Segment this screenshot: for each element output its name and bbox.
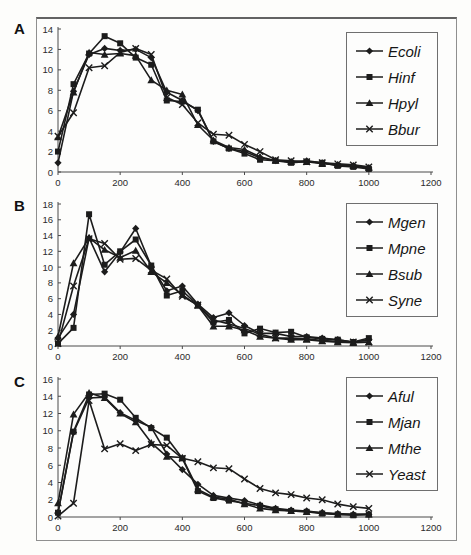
legend-entry-hpyl: Hpyl	[355, 90, 437, 116]
panel-c: 0246810121416020040060080010001200AfulMj…	[36, 369, 457, 541]
legend-label: Mpne	[388, 240, 426, 257]
triangle-marker-icon	[355, 268, 385, 280]
x-tick-label: 0	[55, 177, 60, 188]
triangle-marker	[147, 76, 155, 83]
legend-entry-mgen: Mgen	[355, 209, 437, 235]
y-tick-label: 10	[42, 262, 53, 273]
y-tick-label: 0	[48, 341, 53, 352]
square-marker	[257, 326, 263, 332]
x-tick-label: 1000	[358, 351, 379, 362]
figure-container: A B C 02468101214020040060080010001200Ec…	[0, 0, 471, 555]
x-tick-label: 200	[112, 177, 128, 188]
square-marker	[86, 211, 92, 217]
legend-entry-bbur: Bbur	[355, 116, 437, 142]
square-marker	[164, 435, 170, 441]
y-tick-label: 12	[42, 246, 53, 257]
legend-label: Mthe	[388, 440, 421, 457]
square-marker	[102, 33, 108, 39]
y-tick-label: 2	[48, 325, 53, 336]
legend-entry-mpne: Mpne	[355, 235, 437, 261]
y-tick-label: 8	[48, 443, 53, 454]
y-tick-label: 6	[48, 460, 53, 471]
y-tick-label: 14	[42, 24, 53, 35]
diamond-marker	[366, 47, 373, 54]
square-marker	[148, 62, 154, 68]
y-tick-label: 12	[42, 44, 53, 55]
y-tick-label: 4	[48, 126, 53, 137]
legend-entry-aful: Aful	[355, 383, 437, 409]
legend-entry-mthe: Mthe	[355, 435, 437, 461]
y-tick-label: 0	[48, 512, 53, 523]
series-bbur	[55, 45, 372, 170]
legend-label: Hinf	[388, 69, 415, 86]
series-hpyl	[54, 49, 373, 171]
panel-c-legend: AfulMjanMtheYeast	[346, 377, 438, 491]
square-marker-icon	[355, 71, 385, 83]
x-tick-label: 800	[299, 177, 315, 188]
y-tick-label: 16	[42, 214, 53, 225]
y-tick-label: 16	[42, 374, 53, 385]
square-marker	[367, 245, 373, 251]
series-yeast	[55, 397, 372, 519]
x-marker	[133, 447, 139, 453]
square-marker	[133, 237, 139, 243]
x-tick-label: 0	[55, 522, 60, 533]
y-tick-label: 12	[42, 408, 53, 419]
x-tick-label: 1000	[358, 177, 379, 188]
legend-label: Bsub	[388, 266, 422, 283]
x-marker-icon	[355, 123, 385, 135]
y-tick-label: 8	[48, 85, 53, 96]
legend-label: Mjan	[388, 414, 421, 431]
square-marker	[117, 248, 123, 254]
x-tick-label: 1200	[420, 351, 441, 362]
panel-a-label: A	[14, 20, 25, 37]
panel-b: 024681012141618020040060080010001200Mgen…	[36, 194, 457, 370]
y-tick-label: 10	[42, 425, 53, 436]
y-tick-label: 0	[48, 167, 53, 178]
triangle-marker-icon	[355, 442, 385, 454]
diamond-marker	[54, 159, 61, 166]
y-tick-label: 6	[48, 293, 53, 304]
panel-a: 02468101214020040060080010001200EcoliHin…	[36, 17, 457, 196]
x-tick-label: 600	[237, 351, 253, 362]
diamond-marker	[366, 218, 373, 225]
square-marker	[367, 74, 373, 80]
y-tick-label: 10	[42, 64, 53, 75]
y-tick-label: 2	[48, 146, 53, 157]
y-tick-label: 4	[48, 477, 53, 488]
y-tick-label: 8	[48, 277, 53, 288]
legend-label: Ecoli	[388, 43, 421, 60]
legend-entry-yeast: Yeast	[355, 461, 437, 487]
legend-label: Bbur	[388, 121, 420, 138]
y-tick-label: 14	[42, 391, 53, 402]
square-marker	[195, 107, 201, 113]
series-line	[58, 53, 369, 168]
y-tick-label: 4	[48, 309, 53, 320]
series-bsub	[54, 234, 373, 346]
y-tick-label: 18	[42, 199, 53, 210]
legend-entry-mjan: Mjan	[355, 409, 437, 435]
legend-entry-hinf: Hinf	[355, 64, 437, 90]
x-tick-label: 400	[174, 177, 190, 188]
square-marker	[102, 262, 108, 268]
x-marker-icon	[355, 294, 385, 306]
square-marker	[288, 329, 294, 335]
y-tick-label: 6	[48, 105, 53, 116]
legend-label: Syne	[388, 292, 422, 309]
diamond-marker-icon	[355, 390, 385, 402]
x-marker-icon	[355, 468, 385, 480]
diamond-marker-icon	[355, 45, 385, 57]
square-marker	[117, 397, 123, 403]
x-tick-label: 800	[299, 522, 315, 533]
legend-entry-syne: Syne	[355, 287, 437, 313]
legend-label: Hpyl	[388, 95, 418, 112]
square-marker	[164, 293, 170, 299]
x-tick-label: 1200	[420, 177, 441, 188]
y-tick-label: 14	[42, 230, 53, 241]
panel-a-legend: EcoliHinfHpylBbur	[346, 32, 438, 146]
square-marker	[148, 425, 154, 431]
diamond-marker	[366, 392, 373, 399]
panel-b-label: B	[14, 197, 25, 214]
panel-b-legend: MgenMpneBsubSyne	[346, 203, 438, 317]
diamond-marker-icon	[355, 216, 385, 228]
